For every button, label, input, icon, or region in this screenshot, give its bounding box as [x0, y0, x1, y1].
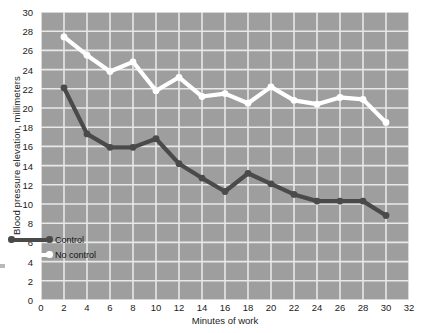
page-edge-mark	[0, 264, 5, 268]
y-tick-label: 22	[0, 83, 36, 94]
legend-item-no-control: No control	[8, 247, 128, 262]
legend-label-no-control: No control	[55, 250, 96, 260]
y-tick-label: 28	[0, 26, 36, 37]
legend-label-control: Control	[55, 235, 84, 245]
legend-swatch-no-control	[8, 249, 54, 260]
x-tick-label: 32	[394, 302, 423, 313]
y-tick-label: 2	[0, 275, 36, 286]
legend-item-control: Control	[8, 232, 128, 247]
chart-legend: Control No control	[8, 232, 128, 262]
y-tick-label: 26	[0, 45, 36, 56]
x-axis-title: Minutes of work	[41, 315, 409, 326]
y-tick-label: 20	[0, 103, 36, 114]
y-tick-label: 8	[0, 218, 36, 229]
y-tick-label: 30	[0, 7, 36, 18]
y-tick-label: 14	[0, 160, 36, 171]
y-tick-label: 10	[0, 199, 36, 210]
y-tick-label: 12	[0, 179, 36, 190]
chart-figure: Blood pressure elevation, millimeters 02…	[0, 0, 423, 333]
y-tick-label: 16	[0, 141, 36, 152]
legend-swatch-control	[8, 234, 54, 245]
y-tick-label: 18	[0, 122, 36, 133]
y-tick-label: 24	[0, 64, 36, 75]
